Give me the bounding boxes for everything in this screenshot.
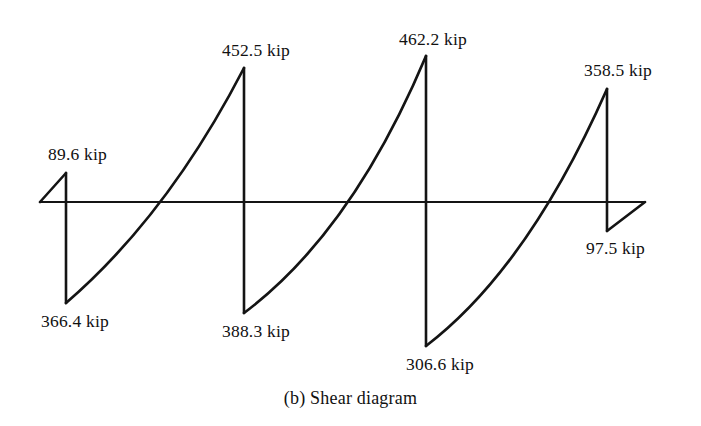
ramp-segment-1	[66, 68, 244, 303]
label-valley-3: 306.6 kip	[406, 356, 474, 374]
shear-diagram-figure: 89.6 kip 366.4 kip 452.5 kip 388.3 kip 4…	[0, 0, 701, 426]
label-peak-3: 462.2 kip	[399, 31, 467, 49]
label-valley-1: 366.4 kip	[41, 313, 109, 331]
figure-caption: (b) Shear diagram	[0, 388, 701, 409]
ramp-segment-2	[244, 56, 426, 313]
label-peak-1: 89.6 kip	[48, 146, 107, 164]
label-peak-2: 452.5 kip	[222, 42, 290, 60]
label-peak-4: 358.5 kip	[584, 62, 652, 80]
ramp-segment-end	[607, 202, 645, 231]
label-valley-2: 388.3 kip	[222, 323, 290, 341]
ramp-segment-start	[40, 173, 66, 202]
label-valley-4: 97.5 kip	[586, 240, 645, 258]
ramp-segment-3	[426, 89, 607, 346]
